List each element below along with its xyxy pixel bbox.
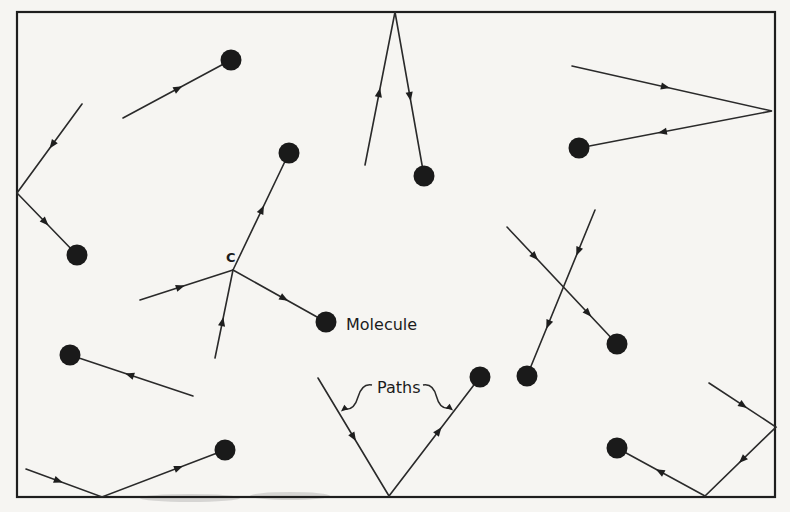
- arrow-icon: [175, 282, 186, 292]
- arrow-icon: [738, 400, 749, 411]
- molecule-path: [17, 104, 82, 255]
- molecule-dot: [60, 345, 81, 366]
- arrow-icon: [348, 431, 359, 442]
- diagram-stage: C Molecule Paths: [0, 0, 790, 512]
- molecule-path: [215, 270, 233, 358]
- molecules: [60, 50, 628, 461]
- molecule-path: [26, 450, 225, 497]
- molecule-path: [365, 12, 424, 176]
- annotations: C Molecule Paths: [226, 250, 455, 414]
- molecule-path: [140, 270, 233, 300]
- molecule-dot: [279, 143, 300, 164]
- molecule-dot: [470, 367, 491, 388]
- molecule-dot: [517, 366, 538, 387]
- molecule-path: [572, 66, 772, 148]
- leader-line: [423, 385, 450, 409]
- molecule-dot: [67, 245, 88, 266]
- molecular-motion-diagram: C Molecule Paths: [0, 0, 790, 512]
- molecule-label: Molecule: [346, 315, 417, 334]
- molecule-path: [617, 383, 776, 496]
- arrow-icon: [173, 83, 184, 94]
- arrow-icon: [257, 204, 267, 215]
- arrow-icon: [573, 246, 583, 257]
- molecule-path: [233, 270, 326, 322]
- molecule-dot: [221, 50, 242, 71]
- leader-line: [344, 385, 372, 410]
- arrow-icon: [53, 476, 64, 486]
- paths-label: Paths: [377, 378, 420, 397]
- arrow-icon: [124, 370, 135, 380]
- molecule-dot: [569, 138, 590, 159]
- collision-point-label: C: [226, 250, 236, 265]
- arrow-icon: [173, 463, 184, 473]
- arrow-icon: [279, 293, 290, 304]
- molecule-path: [527, 210, 595, 376]
- leader-arrow-icon: [339, 405, 348, 414]
- molecule-dot: [316, 312, 337, 333]
- direction-arrows: [40, 83, 749, 486]
- molecule-dot: [414, 166, 435, 187]
- molecule-dot: [215, 440, 236, 461]
- molecule-dot: [607, 334, 628, 355]
- arrow-icon: [654, 466, 665, 477]
- container-box: [17, 12, 775, 497]
- arrow-icon: [543, 319, 553, 330]
- molecule-path: [507, 227, 617, 344]
- molecule-dot: [607, 438, 628, 459]
